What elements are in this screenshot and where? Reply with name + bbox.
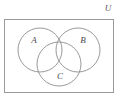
- venn-diagram-canvas: A B C U: [0, 0, 121, 106]
- set-circle-a: [18, 28, 62, 72]
- set-label-a: A: [30, 35, 37, 45]
- set-label-b: B: [80, 35, 86, 45]
- universe-rectangle: [5, 20, 114, 93]
- venn-diagram-figure: A B C U: [0, 0, 121, 106]
- set-circle-b: [56, 28, 100, 72]
- universe-label: U: [105, 3, 112, 13]
- set-label-c: C: [57, 71, 64, 81]
